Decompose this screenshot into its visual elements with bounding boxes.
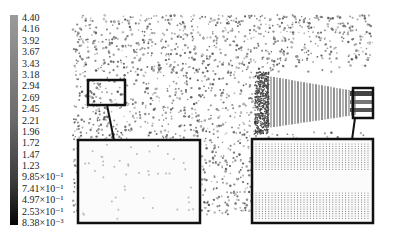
right-connector-line (352, 118, 355, 140)
nozzle-jet (254, 71, 373, 135)
right-magnified-box (252, 139, 373, 223)
left-magnified-box (78, 140, 200, 223)
particle-field (0, 0, 393, 238)
